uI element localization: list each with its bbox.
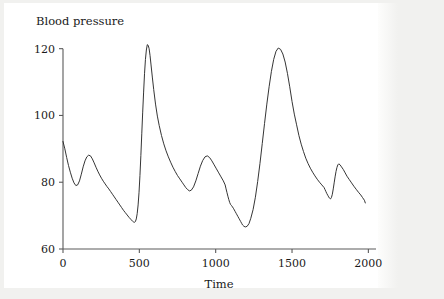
blood-pressure-line-chart: Blood pressure 6080100120 05001000150020… bbox=[0, 0, 444, 299]
x-tick-label: 2000 bbox=[354, 257, 382, 270]
x-tick-label: 0 bbox=[60, 257, 67, 270]
x-axis-title: Time bbox=[204, 277, 233, 291]
blood-pressure-waveform bbox=[63, 45, 365, 227]
y-tick-label: 60 bbox=[41, 243, 55, 256]
figure-canvas: Blood pressure 6080100120 05001000150020… bbox=[0, 0, 444, 299]
y-tick-label: 80 bbox=[41, 176, 55, 189]
x-axis-ticks: 0500100015002000 bbox=[60, 249, 383, 270]
x-tick-label: 500 bbox=[129, 257, 150, 270]
x-tick-label: 1000 bbox=[202, 257, 230, 270]
y-tick-label: 100 bbox=[34, 109, 55, 122]
y-tick-label: 120 bbox=[34, 43, 55, 56]
chart-title: Blood pressure bbox=[36, 14, 124, 28]
x-tick-label: 1500 bbox=[278, 257, 306, 270]
y-axis-ticks: 6080100120 bbox=[34, 43, 63, 256]
